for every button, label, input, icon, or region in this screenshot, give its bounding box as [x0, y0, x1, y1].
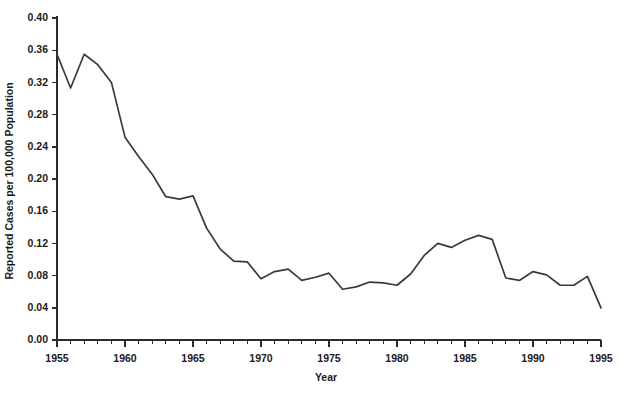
x-tick-label: 1980	[385, 352, 409, 364]
y-axis-tick-labels: 0.000.040.080.120.160.200.240.280.320.36…	[28, 11, 49, 345]
y-tick-label: 0.40	[28, 11, 49, 23]
y-tick-label: 0.28	[28, 108, 49, 120]
x-tick-label: 1985	[453, 352, 477, 364]
y-tick-label: 0.12	[28, 237, 49, 249]
line-chart: 0.000.040.080.120.160.200.240.280.320.36…	[0, 0, 624, 396]
x-axis: 195519601965197019751980198519901995	[45, 340, 613, 364]
y-tick-label: 0.08	[28, 269, 49, 281]
y-tick-label: 0.36	[28, 43, 49, 55]
data-series-line	[57, 54, 601, 308]
y-axis: 0.000.040.080.120.160.200.240.280.320.36…	[28, 11, 57, 345]
x-axis-title: Year	[315, 371, 337, 383]
y-tick-label: 0.00	[28, 333, 49, 345]
y-tick-label: 0.04	[28, 301, 49, 313]
x-tick-label: 1995	[589, 352, 613, 364]
x-tick-label: 1960	[113, 352, 137, 364]
y-tick-label: 0.20	[28, 172, 49, 184]
chart-canvas: 0.000.040.080.120.160.200.240.280.320.36…	[0, 0, 624, 396]
x-tick-label: 1990	[521, 352, 545, 364]
y-tick-label: 0.16	[28, 204, 49, 216]
x-tick-label: 1955	[45, 352, 69, 364]
x-tick-label: 1975	[317, 352, 341, 364]
y-tick-label: 0.32	[28, 76, 49, 88]
x-tick-label: 1970	[249, 352, 273, 364]
y-axis-title: Reported Cases per 100,000 Population	[3, 82, 15, 279]
x-axis-tick-labels: 195519601965197019751980198519901995	[45, 352, 613, 364]
y-tick-label: 0.24	[28, 140, 49, 152]
x-tick-label: 1965	[181, 352, 205, 364]
